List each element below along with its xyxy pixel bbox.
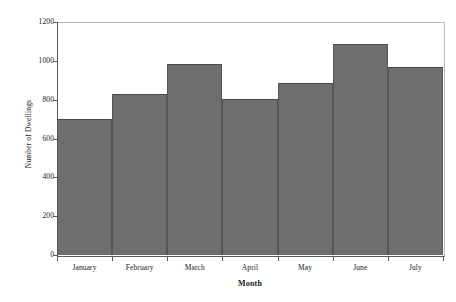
y-axis-tick-mark [53, 61, 58, 62]
x-axis-tick-label: March [167, 263, 222, 274]
x-axis-tick-mark [443, 256, 444, 261]
bar-cell [167, 22, 222, 255]
x-axis-tick-mark [333, 256, 334, 261]
y-axis-tick-label: 800 [28, 95, 54, 105]
y-axis-tick-mark [53, 139, 58, 140]
x-axis-tick-mark [57, 256, 58, 261]
bar [388, 67, 443, 255]
y-axis-tick-mark [53, 216, 58, 217]
bar-cell [333, 22, 388, 255]
x-axis-tick-label: May [278, 263, 333, 274]
bar-cell [112, 22, 167, 255]
y-axis-tick-label: 0 [28, 250, 54, 260]
bar-chart: Number of Dwellings 02004006008001000120… [0, 0, 456, 302]
x-axis-tick-label: June [333, 263, 388, 274]
bar-series [57, 22, 443, 255]
x-axis-title: Month [57, 279, 443, 288]
y-axis-tick-label: 600 [28, 134, 54, 144]
bar [222, 99, 277, 255]
x-axis-tick-mark [388, 256, 389, 261]
y-axis-tick-label: 1200 [28, 17, 54, 27]
bar-cell [57, 22, 112, 255]
bar [57, 119, 112, 255]
x-axis-tick-mark [278, 256, 279, 261]
bar [333, 44, 388, 255]
bar [278, 83, 333, 255]
y-axis-tick-mark [53, 100, 58, 101]
y-axis-tick-mark [53, 22, 58, 23]
bar [167, 64, 222, 255]
bar [112, 94, 167, 255]
x-axis-tick-label: April [222, 263, 277, 274]
y-axis-tick-label: 400 [28, 172, 54, 182]
bar-cell [222, 22, 277, 255]
bar-cell [388, 22, 443, 255]
x-axis-tick-label: July [388, 263, 443, 274]
bar-cell [278, 22, 333, 255]
y-axis-tick-label: 1000 [28, 56, 54, 66]
x-axis-tick-label: February [112, 263, 167, 274]
x-axis-tick-label: January [57, 263, 112, 274]
x-axis-tick-mark [222, 256, 223, 261]
x-axis-tick-mark [167, 256, 168, 261]
y-axis-tick-label: 200 [28, 211, 54, 221]
y-axis-tick-mark [53, 177, 58, 178]
x-axis-tick-mark [112, 256, 113, 261]
